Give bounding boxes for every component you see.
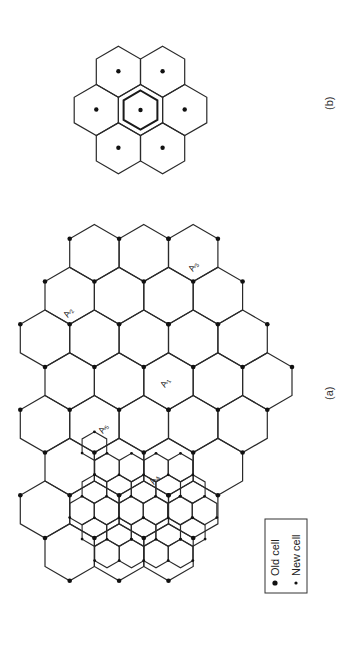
new-cell-site-dot-icon [167,473,170,476]
old-cell-site-dot-icon [290,365,295,370]
cell-label-a2: A2 [61,305,76,319]
old-cell [119,310,168,367]
panel-b-label: (b) [323,97,335,110]
old-cell-site-dot-icon [117,493,122,498]
old-cell [169,481,218,538]
old-cell [193,353,242,410]
old-cell-site-dot-icon [166,408,171,413]
cell-site-dot-icon [183,107,187,111]
old-cell-site-dot-icon [43,450,48,455]
old-cell [70,225,119,282]
old-cell [193,438,242,495]
new-cell-site-dot-icon [191,473,194,476]
cell-label-a3: A3 [186,259,201,273]
old-cell [94,353,143,410]
old-cell [70,396,119,453]
legend-old-cell-label: Old cell [269,539,281,576]
old-cell-site-dot-icon [67,237,72,242]
cell-site-dot-icon [160,146,164,150]
old-cell-site-dot-icon [67,579,72,584]
cell-site-dot-icon [94,107,98,111]
old-cell-site-dot-icon [67,493,72,498]
new-cell-site-dot-icon [215,516,218,519]
new-cell-site-dot-icon [179,538,182,541]
panel-b-cluster [74,46,207,174]
old-cell-site-dot-icon [265,408,270,413]
old-cell [218,310,267,367]
new-cell-site-dot-icon [142,473,145,476]
old-cell-site-dot-icon [67,408,72,413]
old-cell-site-dot-icon [191,450,196,455]
old-cell [45,353,94,410]
new-cell-site-dot-icon [142,559,145,562]
old-cell [218,396,267,453]
old-cell [70,310,119,367]
new-cell-site-dot-icon [204,538,207,541]
cell-site-dot-icon [116,69,120,73]
new-cell-site-dot-icon [118,516,121,519]
old-cell-site-dot-icon [216,237,221,242]
new-cell-site-dot-icon [179,452,182,455]
old-cell-site-dot-icon [216,493,221,498]
new-cell-site-dot-icon [191,559,194,562]
legend-new-cell-label: New cell [290,534,302,576]
old-cell-site-dot-icon [191,279,196,284]
old-cell [119,396,168,453]
new-cell-site-dot-icon [81,495,84,498]
old-cell [20,481,69,538]
new-cell-site-dot-icon [93,430,96,433]
old-cell-site-dot-icon [240,365,245,370]
old-cell-site-dot-icon [216,322,221,327]
new-cell-site-dot-icon [167,516,170,519]
new-cell-site-dot-icon [155,452,158,455]
old-cell-site-dot-icon [43,279,48,284]
new-cell-site-dot-icon [106,452,109,455]
new-cell-site-dot-icon [68,516,71,519]
old-cell-site-dot-icon [166,322,171,327]
new-cell [192,496,217,525]
cell-site-dot-icon [138,108,142,112]
old-cell [169,310,218,367]
old-cell-site-dot-icon [166,237,171,242]
old-cell [45,438,94,495]
old-cell [20,396,69,453]
new-cell-site-dot-icon [130,495,133,498]
old-cell-site-dot-icon [92,279,97,284]
old-cell-site-dot-icon [18,493,23,498]
old-cell-site-dot-icon [191,536,196,541]
old-cell-site-dot-icon [43,536,48,541]
old-cell-site-dot-icon [191,365,196,370]
old-cell [193,267,242,324]
old-cell-site-dot-icon [142,450,147,455]
old-cell-site-dot-icon [92,450,97,455]
old-cell-dot-icon [272,580,277,585]
old-cell [45,524,94,581]
cell-site-dot-icon [116,146,120,150]
new-cell-site-dot-icon [93,516,96,519]
new-cell-site-dot-icon [93,473,96,476]
old-cell [20,310,69,367]
old-cell-site-dot-icon [240,279,245,284]
old-cell [94,267,143,324]
old-cell-site-dot-icon [117,579,122,584]
new-cell-site-dot-icon [130,538,133,541]
cell-label-a1: A1 [158,375,173,389]
old-cell-site-dot-icon [142,536,147,541]
old-cell-site-dot-icon [18,408,23,413]
cell-site-dot-icon [160,69,164,73]
new-cell-site-dot-icon [93,559,96,562]
new-cell-site-dot-icon [81,538,84,541]
new-cell-site-dot-icon [154,495,157,498]
old-cell-site-dot-icon [142,279,147,284]
cell-label-a5: A5 [96,421,111,435]
old-cell-site-dot-icon [92,365,97,370]
new-cell-site-dot-icon [167,559,170,562]
old-cell-site-dot-icon [216,408,221,413]
old-cell [169,396,218,453]
new-cell-site-dot-icon [81,452,84,455]
old-cell-site-dot-icon [18,322,23,327]
old-cell-site-dot-icon [166,493,171,498]
new-cell-site-dot-icon [118,473,121,476]
new-cell-site-dot-icon [179,495,182,498]
cell-splitting-diagram: A1A2A3A4A5 (b) (a) Old cell New cell [0,0,347,651]
